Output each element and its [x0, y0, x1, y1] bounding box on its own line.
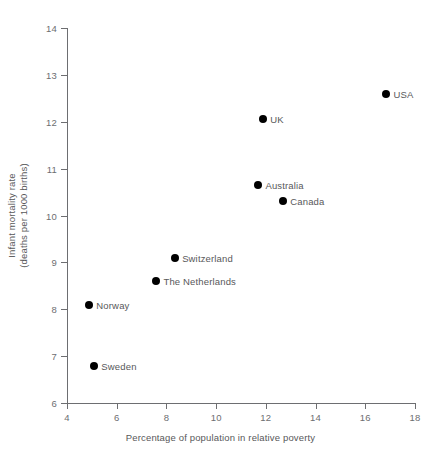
- x-tick-label: 12: [260, 412, 271, 423]
- x-tick: [166, 403, 167, 409]
- y-axis-title: Infant mortality rate (deaths per 1000 b…: [6, 28, 34, 403]
- data-point-label: UK: [270, 114, 284, 125]
- x-tick: [316, 403, 317, 409]
- y-tick-label: 6: [52, 398, 57, 409]
- data-point[interactable]: [152, 277, 160, 285]
- x-tick: [216, 403, 217, 409]
- y-tick: [61, 356, 67, 357]
- y-tick-label: 7: [52, 351, 57, 362]
- x-tick: [266, 403, 267, 409]
- y-tick-label: 12: [46, 116, 57, 127]
- y-axis-title-line1: Infant mortality rate: [6, 28, 18, 403]
- data-point-label: Sweden: [101, 360, 136, 371]
- y-tick-label: 8: [52, 304, 57, 315]
- data-point[interactable]: [382, 90, 390, 98]
- y-axis-line: [67, 28, 68, 404]
- x-tick-label: 8: [164, 412, 169, 423]
- data-point-label: Australia: [265, 180, 303, 191]
- data-point-label: The Netherlands: [163, 276, 235, 287]
- x-tick-label: 16: [360, 412, 371, 423]
- y-tick-label: 9: [52, 257, 57, 268]
- data-point-label: Canada: [290, 196, 324, 207]
- y-tick-label: 11: [47, 163, 57, 174]
- y-tick-label: 10: [46, 210, 57, 221]
- data-point[interactable]: [279, 197, 287, 205]
- y-tick: [61, 75, 67, 76]
- x-tick-label: 6: [114, 412, 119, 423]
- y-tick: [61, 28, 67, 29]
- x-axis-line: [67, 403, 416, 404]
- data-point-label: USA: [393, 88, 413, 99]
- data-point-label: Norway: [96, 299, 129, 310]
- x-tick: [67, 403, 68, 409]
- y-tick: [61, 216, 67, 217]
- x-tick: [117, 403, 118, 409]
- data-point-label: Switzerland: [182, 252, 233, 263]
- x-axis-title: Percentage of population in relative pov…: [0, 432, 441, 443]
- scatter-chart: 67891011121314 4681012141618 SwedenNorwa…: [0, 0, 441, 465]
- y-tick-label: 13: [46, 69, 57, 80]
- x-tick-label: 10: [211, 412, 222, 423]
- y-tick: [61, 262, 67, 263]
- data-point[interactable]: [259, 115, 267, 123]
- y-tick: [61, 169, 67, 170]
- data-point[interactable]: [171, 254, 179, 262]
- y-tick: [61, 122, 67, 123]
- x-tick-label: 4: [64, 412, 69, 423]
- x-tick: [415, 403, 416, 409]
- x-tick-label: 18: [410, 412, 421, 423]
- y-axis-title-line2: (deaths per 1000 births): [18, 28, 30, 403]
- x-tick-label: 14: [310, 412, 321, 423]
- plot-area: 67891011121314 4681012141618 SwedenNorwa…: [67, 28, 415, 403]
- data-point[interactable]: [254, 181, 262, 189]
- y-tick-label: 14: [46, 23, 57, 34]
- data-point[interactable]: [90, 362, 98, 370]
- data-point[interactable]: [85, 301, 93, 309]
- x-tick: [365, 403, 366, 409]
- y-tick: [61, 309, 67, 310]
